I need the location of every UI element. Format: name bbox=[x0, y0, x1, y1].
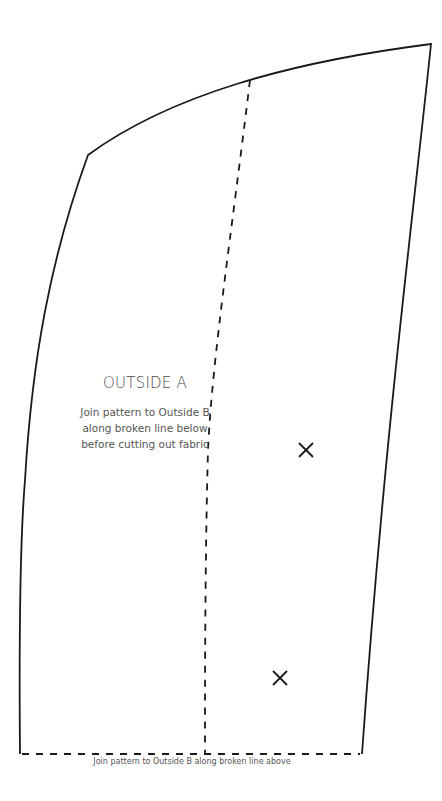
cross-icon bbox=[299, 443, 313, 457]
piece-instructions: Join pattern to Outside B along broken l… bbox=[75, 404, 215, 452]
piece-title: OUTSIDE A bbox=[75, 372, 215, 394]
instruction-line: Join pattern to Outside B bbox=[75, 404, 215, 420]
bottom-join-caption: Join pattern to Outside B along broken l… bbox=[0, 756, 384, 768]
cross-icon bbox=[273, 671, 287, 685]
pattern-piece-drawing bbox=[0, 0, 442, 801]
instruction-line: before cutting out fabric bbox=[75, 436, 215, 452]
piece-label: OUTSIDE A Join pattern to Outside B alon… bbox=[75, 372, 215, 452]
instruction-line: along broken line below bbox=[75, 420, 215, 436]
